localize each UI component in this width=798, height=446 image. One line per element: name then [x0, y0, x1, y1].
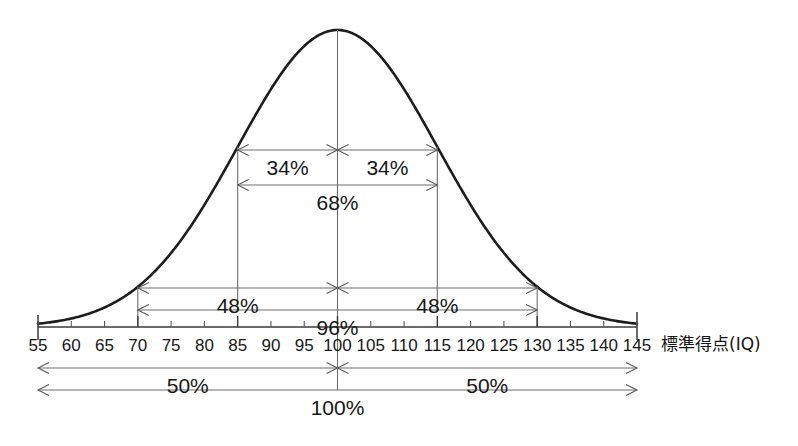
percentage-label-span-100: 100% — [311, 396, 365, 419]
x-axis-tick-label: 130 — [523, 336, 551, 355]
x-axis-title: 標準得点(IQ) — [661, 334, 761, 354]
x-axis-tick-label: 55 — [29, 336, 48, 355]
x-axis-tick-label: 80 — [195, 336, 214, 355]
x-axis-tick-label: 85 — [228, 336, 247, 355]
x-axis-tick-label: 90 — [261, 336, 280, 355]
x-axis-tick-label: 125 — [490, 336, 518, 355]
x-axis-tick-label: 70 — [128, 336, 147, 355]
percentage-label-span-68: 68% — [316, 191, 358, 214]
x-axis-tick-label: 75 — [162, 336, 181, 355]
percentage-label-left-48: 48% — [217, 294, 259, 317]
percentage-label-right-48: 48% — [416, 294, 458, 317]
x-axis-tick-label: 110 — [391, 336, 418, 355]
x-axis-tick-label: 65 — [95, 336, 114, 355]
percentage-label-span-96: 96% — [316, 316, 358, 339]
x-axis-tick-label: 115 — [424, 336, 451, 355]
x-axis-tick-label: 135 — [556, 336, 584, 355]
chart-canvas: 5560657075808590951001051101151201251301… — [0, 0, 798, 446]
percentage-label-left-50: 50% — [167, 374, 209, 397]
x-axis-tick-label: 140 — [590, 336, 618, 355]
x-axis-tick-label: 145 — [623, 336, 651, 355]
percentage-label-left-34: 34% — [267, 156, 309, 179]
percentage-label-right-50: 50% — [466, 374, 508, 397]
percentage-label-right-34: 34% — [366, 156, 408, 179]
x-axis-tick-label: 60 — [62, 336, 81, 355]
normal-distribution-chart: 5560657075808590951001051101151201251301… — [0, 0, 798, 446]
x-axis-tick-label: 105 — [357, 336, 385, 355]
x-axis-tick-label: 95 — [295, 336, 314, 355]
x-axis-tick-label: 120 — [456, 336, 484, 355]
